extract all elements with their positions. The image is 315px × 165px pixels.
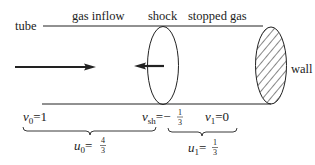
svg-text:3: 3 [101,146,105,155]
wall-label: wall [291,62,313,76]
svg-text:u1=: u1= [188,140,206,157]
u1-equation: u1= 1 3 [188,138,218,157]
shock-label: shock [148,9,178,23]
u0-equation: u0= 4 3 [74,136,106,155]
v1-equation: v1=0 [205,109,229,126]
gas-inflow-label: gas inflow [72,9,124,23]
svg-text:v0=1: v0=1 [23,109,47,126]
shock-velocity-arrow-icon [134,63,164,70]
svg-text:v1=0: v1=0 [205,109,229,126]
stopped-gas-label: stopped gas [188,9,247,23]
svg-text:3: 3 [178,118,182,127]
inflow-arrow-icon [15,64,96,71]
shock-tube-diagram: tube gas inflow shock stopped gas wall v… [0,0,315,165]
svg-text:u0=: u0= [74,138,92,155]
svg-text:4: 4 [101,136,105,145]
inflow-region-brace [23,127,156,135]
svg-text:3: 3 [213,148,217,157]
svg-text:1: 1 [178,108,182,117]
vsh-equation: vsh=− 1 3 [142,108,183,127]
svg-text:vsh=−: vsh=− [142,109,170,126]
svg-text:1: 1 [213,138,217,147]
wall-hatching [250,20,295,110]
v0-equation: v0=1 [23,109,47,126]
tube-label: tube [15,19,37,33]
stopped-region-brace [168,128,237,136]
